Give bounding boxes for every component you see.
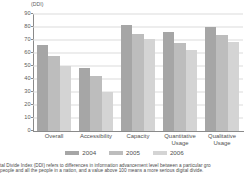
- legend-item-2004: 2004: [65, 150, 96, 156]
- x-axis-labels: Overall Accessibility Capacity Quantitat…: [33, 133, 243, 146]
- bar-group-capacity: [117, 14, 159, 131]
- bar-qualitative-usage-2006: [228, 42, 240, 131]
- y-tick-label-70: 70: [24, 37, 30, 43]
- x-label-qualitative-usage: Qualitative Usage: [201, 133, 243, 146]
- legend-item-2005: 2005: [109, 150, 140, 156]
- bar-group-quantitative-usage: [159, 14, 201, 131]
- bar-quantitative-usage-2005: [174, 43, 186, 131]
- caption-line-2: people and all the people in a nation, a…: [0, 168, 249, 173]
- y-tick-label-90: 90: [24, 11, 30, 17]
- bar-overall-2006: [60, 66, 72, 131]
- bar-quantitative-usage-2004: [163, 32, 175, 131]
- x-label-overall: Overall: [33, 133, 75, 146]
- legend-swatch-2005: [109, 151, 123, 155]
- bar-capacity-2006: [144, 39, 156, 131]
- y-tick-label-40: 40: [24, 76, 30, 82]
- legend-item-2006: 2006: [153, 150, 184, 156]
- x-label-quantitative-usage: Quantitative Usage: [159, 133, 201, 146]
- ddi-bar-chart-figure: (DDI) 90 80 70 60 50 40 30: [0, 0, 249, 178]
- bar-overall-2004: [37, 45, 49, 131]
- plot-area: 90 80 70 60 50 40 30 20: [33, 14, 243, 131]
- chart-legend: 2004 2005 2006: [0, 150, 249, 156]
- bar-groups: [33, 14, 243, 131]
- bar-qualitative-usage-2005: [216, 35, 228, 131]
- bar-overall-2005: [48, 56, 60, 131]
- bar-accessibility-2004: [79, 68, 91, 131]
- legend-label-2005: 2005: [126, 150, 140, 156]
- y-axis-unit-label: (DDI): [31, 1, 44, 7]
- legend-swatch-2004: [65, 151, 79, 155]
- x-label-capacity: Capacity: [117, 133, 159, 146]
- bar-group-qualitative-usage: [201, 14, 243, 131]
- bar-qualitative-usage-2004: [205, 27, 217, 131]
- y-tick-label-10: 10: [24, 115, 30, 121]
- y-tick-label-60: 60: [24, 50, 30, 56]
- bar-quantitative-usage-2006: [186, 50, 198, 131]
- legend-swatch-2006: [153, 151, 167, 155]
- y-tick-label-50: 50: [24, 63, 30, 69]
- bar-accessibility-2006: [102, 92, 114, 131]
- legend-label-2004: 2004: [82, 150, 96, 156]
- bar-group-accessibility: [75, 14, 117, 131]
- bar-accessibility-2005: [90, 76, 102, 131]
- bar-group-overall: [33, 14, 75, 131]
- figure-caption: tal Divide Index (DDI) refers to differe…: [0, 163, 249, 174]
- x-label-accessibility: Accessibility: [75, 133, 117, 146]
- y-tick-label-80: 80: [24, 24, 30, 30]
- y-tick-label-30: 30: [24, 89, 30, 95]
- y-tick-label-20: 20: [24, 102, 30, 108]
- y-tick-label-0: 0: [27, 128, 30, 134]
- legend-label-2006: 2006: [170, 150, 184, 156]
- bar-capacity-2005: [132, 34, 144, 131]
- bar-capacity-2004: [121, 25, 133, 131]
